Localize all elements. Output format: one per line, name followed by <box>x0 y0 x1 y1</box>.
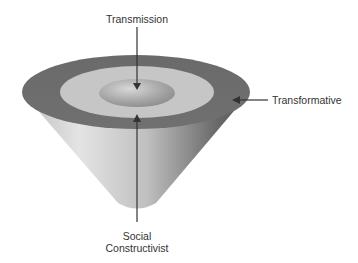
transformative-label: Transformative <box>272 94 342 106</box>
cone-diagram <box>0 0 358 263</box>
social-constructivist-label-line2: Constructivist <box>105 242 168 254</box>
social-constructivist-label-line1: Social <box>105 230 168 242</box>
social-constructivist-label: Social Constructivist <box>105 230 168 254</box>
transmission-label: Transmission <box>106 13 168 25</box>
